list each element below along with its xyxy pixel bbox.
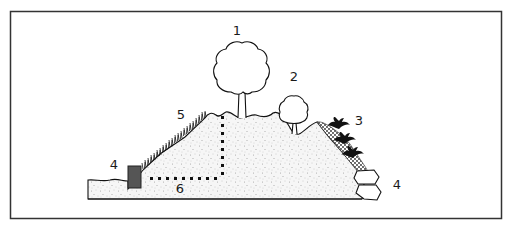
label-3: 3 <box>355 113 363 128</box>
label-4-right: 4 <box>393 177 401 192</box>
label-2: 2 <box>290 69 298 84</box>
label-6: 6 <box>176 181 184 196</box>
slope-diagram: 1 2 3 4 4 5 6 <box>0 0 510 230</box>
large-tree-icon <box>214 42 270 118</box>
boulder-upper <box>354 170 379 184</box>
label-4-left: 4 <box>110 157 118 172</box>
label-1: 1 <box>233 23 241 38</box>
retaining-block <box>128 166 141 188</box>
label-5: 5 <box>177 107 185 122</box>
